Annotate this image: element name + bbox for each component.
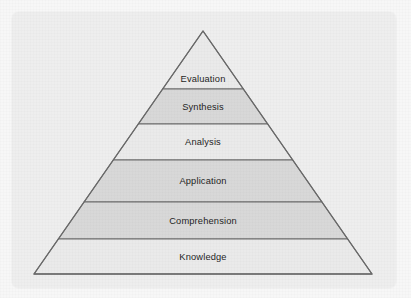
pyramid-tier-synthesis: Synthesis	[138, 89, 267, 124]
tier-label-analysis: Analysis	[185, 137, 221, 147]
pyramid-tier-comprehension: Comprehension	[58, 202, 347, 239]
tier-label-synthesis: Synthesis	[182, 102, 224, 112]
figure-canvas: Evaluation Synthesis Analysis Applicatio…	[0, 0, 411, 298]
tier-label-evaluation: Evaluation	[181, 74, 226, 84]
pyramid-tier-evaluation: Evaluation	[163, 31, 244, 89]
tier-label-knowledge: Knowledge	[179, 252, 226, 262]
tier-label-application: Application	[179, 176, 226, 186]
pyramid-tier-analysis: Analysis	[113, 124, 292, 160]
tier-label-comprehension: Comprehension	[169, 216, 237, 226]
pyramid-tier-application: Application	[84, 160, 322, 202]
pyramid-diagram: Evaluation Synthesis Analysis Applicatio…	[0, 0, 411, 298]
pyramid-tier-knowledge: Knowledge	[34, 239, 372, 274]
